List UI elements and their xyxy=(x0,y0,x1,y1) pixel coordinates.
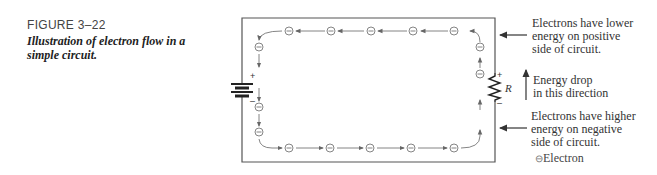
electron-icon: ⊖ xyxy=(535,153,543,164)
electron-icon xyxy=(255,103,263,111)
battery-minus-sign: – xyxy=(250,96,255,106)
electron-flow-path xyxy=(259,31,480,148)
electron-icon xyxy=(476,43,484,51)
electron-icon xyxy=(285,144,293,152)
electron-icon xyxy=(255,128,263,136)
electron-icon xyxy=(366,144,374,152)
higher-energy-note: Electrons have higher energy on negative… xyxy=(531,110,636,149)
electron-icon xyxy=(450,27,458,35)
electron-icon xyxy=(409,27,417,35)
electron-icon xyxy=(285,27,293,35)
electron-icon xyxy=(255,43,263,51)
electron-icon xyxy=(476,70,484,78)
energy-drop-note: Energy drop in this direction xyxy=(533,74,608,100)
electrons xyxy=(255,27,484,152)
resistor-label: R xyxy=(504,82,512,94)
legend-label: Electron xyxy=(543,151,584,165)
lower-energy-note: Electrons have lower energy on positive … xyxy=(532,17,633,56)
electron-icon xyxy=(407,144,415,152)
electron-icon xyxy=(367,27,375,35)
circuit-wire xyxy=(242,18,495,162)
battery-plus-sign: + xyxy=(250,71,255,81)
resistor-minus-sign: – xyxy=(497,98,502,108)
electron-icon xyxy=(450,144,458,152)
resistor-plus-sign: + xyxy=(497,70,502,80)
electron-icon xyxy=(327,27,335,35)
electron-icon xyxy=(326,144,334,152)
legend: ⊖Electron xyxy=(535,151,584,166)
battery-icon xyxy=(231,84,253,96)
